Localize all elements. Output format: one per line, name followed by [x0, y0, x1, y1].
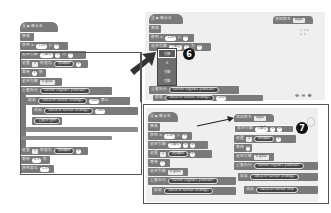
zoom-reset-button[interactable]: =	[301, 92, 305, 98]
zoom-out-button[interactable]: ⊖	[295, 92, 299, 98]
arrow-to-pin-menu-icon	[128, 48, 158, 76]
say-block[interactable]: 说出 value of sensor Ana	[244, 186, 318, 194]
when-flag-clicked-hat-block[interactable]: 当 ▶ 被点击	[20, 22, 58, 32]
coordinates-readout: x: 1.0 y: 1	[300, 28, 309, 36]
highlight-frame-left	[20, 52, 142, 175]
faint-circle-decoration	[307, 117, 315, 127]
y-input[interactable]: 0	[54, 44, 59, 49]
hat-label: 当 ▶ 被点击	[22, 25, 43, 29]
pin-menu-item[interactable]: 6	[158, 58, 176, 67]
wait-seconds-block[interactable]: 等待 1	[148, 159, 170, 167]
wait-seconds-block[interactable]: 等待 0	[234, 144, 252, 152]
set-pin-block-attached[interactable]: 设定引脚 引脚号 6 0	[234, 125, 294, 133]
go-to-xy-block[interactable]: 移到 x: 120 y: 0	[148, 132, 192, 140]
connector-line-top	[140, 52, 142, 102]
step-badge-6: 6	[183, 48, 195, 60]
zoom-in-button[interactable]: ⊕	[307, 92, 311, 98]
repeat-until-block[interactable]: 重复执行 sensor Digital1 pressed?	[149, 86, 239, 94]
go-to-xy-block[interactable]: 移到 x: 120 y: 0	[149, 34, 194, 42]
set-pin-block[interactable]: 设定引脚 引脚号 6 0	[148, 141, 208, 149]
repeat-until-block[interactable]: 重复执行 sensor Digital1 pressed?	[148, 177, 236, 185]
repeat-until-block[interactable]: 重复执行 sensor Digital1 pressed?	[234, 162, 318, 170]
switch-costume-block[interactable]: 换成	[148, 123, 160, 131]
when-flag-clicked-hat-block[interactable]: 当 ▶ 被点击	[148, 112, 178, 122]
set-glow-block[interactable]: 设定引脚 0 glow	[148, 168, 188, 176]
pin-menu-item[interactable]: 引脚	[158, 76, 176, 85]
if-block[interactable]: 如果 value of sensor Analog1	[152, 187, 236, 195]
apps-block[interactable]: 添加积木 Apps	[234, 114, 274, 122]
set-glow-block[interactable]: 设定引脚 0 glow	[234, 153, 274, 161]
apps-block[interactable]: 添加积木 Apps	[273, 16, 313, 24]
pin-menu-item-selected[interactable]: 引脚	[158, 49, 176, 58]
switch-costume-block[interactable]: 换成	[149, 25, 161, 33]
zoom-controls: ⊖ = ⊕	[295, 92, 312, 98]
switch-costume-block[interactable]: 换成	[20, 33, 34, 41]
apps-dropdown[interactable]: Apps	[293, 18, 305, 23]
arrow-attach-icon	[196, 116, 236, 128]
if-block[interactable]: 如果 value of sensor Analog1 100	[153, 95, 263, 101]
when-flag-clicked-hat-block[interactable]: 当 ▶ 被点击	[149, 14, 183, 24]
pin-dropdown-menu[interactable]: 引脚 6 引脚 引脚	[157, 48, 177, 86]
set-analog-output-block[interactable]: 设置 1 模拟输出 0	[148, 150, 212, 158]
go-to-xy-block[interactable]: 移到 x: 120 y: 0	[20, 42, 68, 50]
if-block[interactable]: 如果 value of sensor Analog1	[238, 173, 318, 181]
top-right-script-area[interactable]: 当 ▶ 被点击 换成 移到 x: 120 y: 0 设定引脚 引脚号 6 为 0…	[145, 12, 325, 100]
pin-menu-item[interactable]: 引脚	[158, 67, 176, 76]
set-analog-output-block[interactable]: 设置 1 模拟输出 0	[234, 135, 296, 143]
x-input[interactable]: 120	[36, 44, 46, 49]
